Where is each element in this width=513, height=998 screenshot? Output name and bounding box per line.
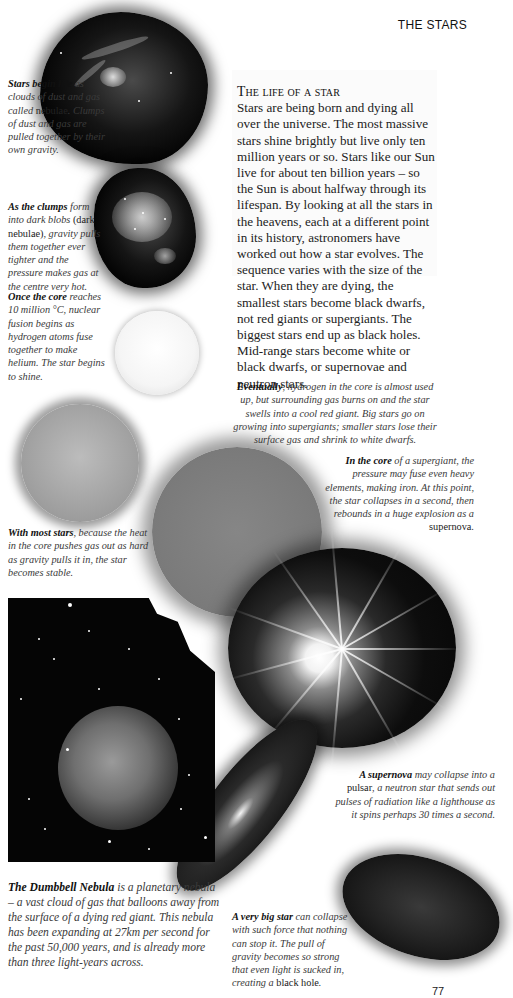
caption-black-hole: A very big star can collapse with such f… <box>232 910 354 990</box>
caption-clumps: As the clumps form into dark blobs (dark… <box>8 200 104 293</box>
caption-pulsar: A supernova may collapse into a pulsar, … <box>332 768 495 821</box>
caption-supergiant-core: In the core of a supergiant, the pressur… <box>314 454 474 534</box>
intro-body: Stars are being born and dying all over … <box>237 100 435 390</box>
dumbbell-nebula-photo <box>8 598 215 862</box>
intro-section: The life of a star Stars are being born … <box>237 84 437 392</box>
section-heading: The life of a star <box>237 84 437 100</box>
black-hole-illustration <box>329 835 513 978</box>
supernova-illustration <box>228 548 456 748</box>
running-head: THE STARS <box>398 18 467 32</box>
caption-core: Once the core reaches 10 million °C, nuc… <box>8 290 108 383</box>
caption-stable-star: With most stars, because the heat in the… <box>8 526 156 579</box>
dark-nebula-clump-illustration <box>94 168 196 288</box>
young-star-illustration <box>115 311 199 395</box>
caption-nebulae: Stars begin life as clouds of dust and g… <box>8 77 108 157</box>
caption-dumbbell-nebula: The Dumbbell Nebula is a planetary nebul… <box>8 880 220 970</box>
stable-star-illustration <box>21 404 139 522</box>
caption-eventually: Eventually, hydrogen in the core is almo… <box>230 380 440 446</box>
page-number: 77 <box>432 985 444 997</box>
